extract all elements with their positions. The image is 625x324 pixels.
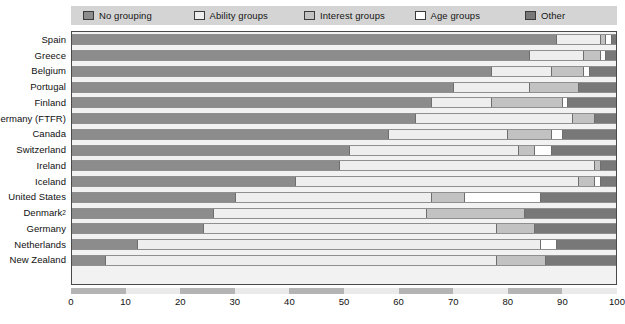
bar-row[interactable] xyxy=(72,127,616,143)
legend-item-age-groups[interactable]: Age groups xyxy=(409,11,520,21)
bar-segment-ability-groups[interactable] xyxy=(235,193,431,202)
legend-item-no-grouping[interactable]: No grouping xyxy=(77,11,188,21)
legend-item-ability-groups[interactable]: Ability groups xyxy=(188,11,299,21)
bar-segment-other[interactable] xyxy=(611,35,616,44)
bar-segment-interest-groups[interactable] xyxy=(572,114,594,123)
stacked-bar[interactable] xyxy=(72,239,616,250)
bar-segment-no-grouping[interactable] xyxy=(72,83,453,92)
bar-row[interactable] xyxy=(72,142,616,158)
bar-segment-ability-groups[interactable] xyxy=(105,256,497,265)
bar-segment-ability-groups[interactable] xyxy=(556,35,600,44)
bar-segment-other[interactable] xyxy=(567,98,616,107)
bar-segment-no-grouping[interactable] xyxy=(72,114,415,123)
bar-segment-interest-groups[interactable] xyxy=(551,67,584,76)
bar-segment-no-grouping[interactable] xyxy=(72,161,339,170)
x-axis-ruler-band xyxy=(71,288,617,294)
bar-segment-no-grouping[interactable] xyxy=(72,51,529,60)
bar-row[interactable] xyxy=(72,174,616,190)
bar-segment-no-grouping[interactable] xyxy=(72,146,349,155)
bar-segment-other[interactable] xyxy=(556,240,616,249)
x-axis-tick-0: 0 xyxy=(68,296,73,307)
stacked-bar[interactable] xyxy=(72,223,616,234)
bar-segment-ability-groups[interactable] xyxy=(491,67,551,76)
bar-segment-interest-groups[interactable] xyxy=(426,209,524,218)
stacked-bar[interactable] xyxy=(72,192,616,203)
bar-segment-other[interactable] xyxy=(589,67,616,76)
bar-segment-interest-groups[interactable] xyxy=(491,98,562,107)
bar-segment-age-groups[interactable] xyxy=(551,130,562,139)
bar-row[interactable] xyxy=(72,64,616,80)
bar-segment-no-grouping[interactable] xyxy=(72,240,137,249)
bar-row[interactable] xyxy=(72,79,616,95)
bar-segment-ability-groups[interactable] xyxy=(388,130,508,139)
bar-row[interactable] xyxy=(72,95,616,111)
bar-segment-other[interactable] xyxy=(605,51,616,60)
stacked-bar[interactable] xyxy=(72,113,616,124)
bar-segment-other[interactable] xyxy=(600,177,616,186)
bar-row[interactable] xyxy=(72,221,616,237)
stacked-bar[interactable] xyxy=(72,50,616,61)
stacked-bar[interactable] xyxy=(72,208,616,219)
bar-segment-interest-groups[interactable] xyxy=(529,83,578,92)
stacked-bar[interactable] xyxy=(72,145,616,156)
legend-item-label: No grouping xyxy=(99,11,152,21)
bar-segment-age-groups[interactable] xyxy=(534,146,550,155)
y-axis-label-canada: Canada xyxy=(0,127,66,143)
legend-item-other[interactable]: Other xyxy=(519,11,611,21)
stacked-bar[interactable] xyxy=(72,129,616,140)
bar-row[interactable] xyxy=(72,253,616,269)
bar-segment-interest-groups[interactable] xyxy=(431,193,464,202)
bar-segment-other[interactable] xyxy=(540,193,616,202)
stacked-bar[interactable] xyxy=(72,160,616,171)
bar-segment-other[interactable] xyxy=(594,114,616,123)
bar-segment-ability-groups[interactable] xyxy=(349,146,518,155)
bar-row[interactable] xyxy=(72,190,616,206)
bar-segment-other[interactable] xyxy=(524,209,616,218)
bar-segment-ability-groups[interactable] xyxy=(529,51,583,60)
bar-row[interactable] xyxy=(72,158,616,174)
bar-segment-no-grouping[interactable] xyxy=(72,98,431,107)
bar-row[interactable] xyxy=(72,205,616,221)
bar-segment-other[interactable] xyxy=(562,130,616,139)
bar-segment-ability-groups[interactable] xyxy=(453,83,529,92)
stacked-bar[interactable] xyxy=(72,255,616,266)
bar-segment-no-grouping[interactable] xyxy=(72,209,213,218)
bar-row[interactable] xyxy=(72,32,616,48)
bar-segment-no-grouping[interactable] xyxy=(72,224,203,233)
bar-segment-ability-groups[interactable] xyxy=(415,114,573,123)
bar-segment-other[interactable] xyxy=(551,146,616,155)
bar-segment-interest-groups[interactable] xyxy=(496,224,534,233)
bar-segment-no-grouping[interactable] xyxy=(72,193,235,202)
stacked-bar[interactable] xyxy=(72,97,616,108)
bar-segment-ability-groups[interactable] xyxy=(295,177,578,186)
bar-segment-interest-groups[interactable] xyxy=(583,51,599,60)
bar-segment-no-grouping[interactable] xyxy=(72,130,388,139)
stacked-bar[interactable] xyxy=(72,82,616,93)
bar-segment-other[interactable] xyxy=(545,256,616,265)
bar-row[interactable] xyxy=(72,111,616,127)
bar-segment-no-grouping[interactable] xyxy=(72,35,556,44)
bar-segment-interest-groups[interactable] xyxy=(507,130,551,139)
bar-segment-ability-groups[interactable] xyxy=(213,209,425,218)
bar-segment-ability-groups[interactable] xyxy=(339,161,595,170)
bar-segment-interest-groups[interactable] xyxy=(578,177,594,186)
bar-segment-no-grouping[interactable] xyxy=(72,177,295,186)
bar-segment-ability-groups[interactable] xyxy=(137,240,540,249)
legend-item-interest-groups[interactable]: Interest groups xyxy=(298,11,409,21)
bar-segment-other[interactable] xyxy=(600,161,616,170)
bar-segment-no-grouping[interactable] xyxy=(72,256,105,265)
stacked-bar[interactable] xyxy=(72,176,616,187)
bar-segment-no-grouping[interactable] xyxy=(72,67,491,76)
stacked-bar[interactable] xyxy=(72,66,616,77)
stacked-bar[interactable] xyxy=(72,34,616,45)
bar-segment-interest-groups[interactable] xyxy=(518,146,534,155)
bar-segment-age-groups[interactable] xyxy=(464,193,540,202)
bar-segment-interest-groups[interactable] xyxy=(496,256,545,265)
bar-row[interactable] xyxy=(72,48,616,64)
bar-segment-ability-groups[interactable] xyxy=(203,224,497,233)
bar-row[interactable] xyxy=(72,237,616,253)
bar-segment-other[interactable] xyxy=(578,83,616,92)
bar-segment-ability-groups[interactable] xyxy=(431,98,491,107)
bar-segment-age-groups[interactable] xyxy=(540,240,556,249)
bar-segment-other[interactable] xyxy=(534,224,616,233)
